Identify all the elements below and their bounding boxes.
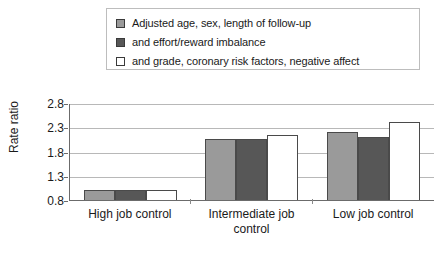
legend-swatch-series-0 (116, 19, 125, 28)
y-axis-ticks: 0.81.31.82.32.8 (28, 104, 64, 201)
bar (267, 135, 298, 200)
chart-legend: Adjusted age, sex, length of follow-up a… (106, 8, 420, 70)
x-axis-label: High job control (69, 207, 191, 237)
legend-item: and effort/reward imbalance (116, 33, 419, 52)
bar-groups (70, 104, 434, 200)
y-axis-tick-label: 2.8 (30, 98, 64, 110)
y-axis-tick-label: 1.3 (30, 171, 64, 183)
y-axis-tick-mark (64, 128, 68, 129)
bar (236, 139, 267, 200)
legend-swatch-series-1 (116, 38, 125, 47)
legend-label-series-0: Adjusted age, sex, length of follow-up (132, 18, 311, 29)
bar (146, 190, 177, 200)
bar (84, 190, 115, 200)
plot-area (69, 104, 434, 201)
y-axis-tick-label: 2.3 (30, 122, 64, 134)
legend-swatch-series-2 (116, 57, 125, 66)
x-axis-labels: High job controlIntermediate job control… (69, 207, 434, 237)
y-axis-tick-mark (64, 201, 68, 202)
bar-chart-figure: Adjusted age, sex, length of follow-up a… (0, 0, 447, 256)
legend-item: and grade, coronary risk factors, negati… (116, 52, 419, 71)
x-axis-label: Low job control (312, 207, 434, 237)
y-axis-tick-label: 0.8 (30, 195, 64, 207)
legend-item: Adjusted age, sex, length of follow-up (116, 14, 419, 33)
bar (205, 139, 236, 200)
bar-group (70, 104, 191, 200)
y-axis-tick-mark (64, 153, 68, 154)
y-axis-tick-mark (64, 104, 68, 105)
legend-label-series-2: and grade, coronary risk factors, negati… (132, 56, 359, 67)
bar (358, 137, 389, 200)
y-axis-tick-mark (64, 177, 68, 178)
bar-group (313, 104, 434, 200)
bar (115, 190, 146, 200)
bar (327, 132, 358, 200)
bar-group (191, 104, 312, 200)
y-axis-tick-label: 1.8 (30, 147, 64, 159)
x-axis-label: Intermediate job control (191, 207, 313, 237)
y-axis-title: Rate ratio (7, 92, 21, 162)
bar (389, 122, 420, 200)
legend-label-series-1: and effort/reward imbalance (132, 37, 265, 48)
